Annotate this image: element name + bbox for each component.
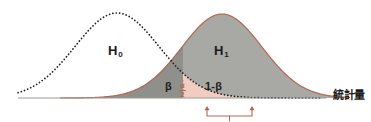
power-label: 1-β [205, 81, 222, 92]
h1-label: H1 [214, 44, 228, 57]
power-analysis-figure: H0 H1 β 1-β α 2 統計量 [0, 0, 371, 122]
axis-label: 統計量 [333, 90, 365, 101]
alpha-denominator: 2 [179, 91, 186, 98]
power-bracket [204, 106, 254, 121]
h0-label: H0 [108, 44, 122, 57]
h1-label-subscript: 1 [224, 50, 229, 59]
beta-label: β [165, 81, 172, 92]
alpha-over-two-label: α 2 [179, 82, 186, 98]
h0-label-subscript: 0 [118, 50, 123, 59]
h0-label-text: H [108, 43, 118, 58]
distribution-chart-svg [0, 0, 371, 122]
alpha-numerator: α [179, 82, 186, 89]
h1-label-text: H [214, 43, 224, 58]
